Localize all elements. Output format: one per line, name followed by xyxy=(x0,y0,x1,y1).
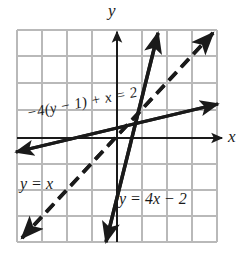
axis-label-y: y xyxy=(108,2,116,19)
coordinate-plane-svg xyxy=(0,0,250,262)
graph-figure: y x −4(y − 1) + x = 2 y = x y = 4x − 2 xyxy=(0,0,250,262)
equation-label-slope-four-line: y = 4x − 2 xyxy=(119,191,187,207)
axis-label-x: x xyxy=(228,128,236,145)
equation-label-identity-line: y = x xyxy=(20,176,53,192)
